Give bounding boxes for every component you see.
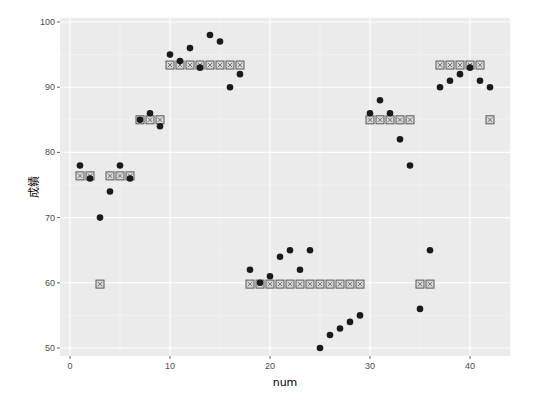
score-dot	[127, 175, 134, 182]
score-dot	[377, 97, 384, 104]
square-x-marker	[116, 172, 124, 180]
score-dot	[197, 64, 204, 71]
score-dot	[467, 64, 474, 71]
score-dot	[367, 110, 374, 117]
y-tick-label: 70	[45, 213, 55, 223]
y-axis: 5060708090100	[40, 17, 60, 353]
y-axis-title: 成績	[27, 176, 41, 198]
score-dot	[407, 162, 414, 169]
score-dot	[217, 38, 224, 45]
score-dot	[147, 110, 154, 117]
square-x-marker	[396, 116, 404, 124]
score-dot	[117, 162, 124, 169]
square-x-marker	[226, 61, 234, 69]
score-dot	[187, 45, 194, 52]
score-dot	[267, 273, 274, 280]
x-tick-label: 0	[67, 361, 72, 371]
square-x-marker	[306, 280, 314, 288]
score-dot	[477, 77, 484, 84]
score-dot	[457, 71, 464, 78]
score-dot	[177, 58, 184, 65]
score-dot	[357, 312, 364, 319]
square-x-marker	[486, 116, 494, 124]
score-dot	[277, 253, 284, 260]
square-x-marker	[276, 280, 284, 288]
score-dot	[157, 123, 164, 130]
x-tick-label: 20	[265, 361, 275, 371]
square-x-marker	[266, 280, 274, 288]
y-tick-label: 50	[45, 343, 55, 353]
score-dot	[447, 77, 454, 84]
square-x-marker	[76, 172, 84, 180]
square-x-marker	[186, 61, 194, 69]
y-tick-label: 100	[40, 17, 55, 27]
score-dot	[437, 84, 444, 91]
square-x-marker	[386, 116, 394, 124]
score-dot	[317, 345, 324, 352]
y-tick-label: 60	[45, 278, 55, 288]
square-x-marker	[406, 116, 414, 124]
square-x-marker	[456, 61, 464, 69]
square-x-marker	[286, 280, 294, 288]
score-dot	[427, 247, 434, 254]
score-dot	[287, 247, 294, 254]
square-x-marker	[376, 116, 384, 124]
square-x-marker	[346, 280, 354, 288]
square-x-marker	[356, 280, 364, 288]
x-tick-label: 30	[365, 361, 375, 371]
square-x-marker	[476, 61, 484, 69]
score-dot	[397, 136, 404, 143]
x-axis: 010203040	[67, 356, 475, 371]
score-dot	[387, 110, 394, 117]
square-x-marker	[446, 61, 454, 69]
score-dot	[417, 306, 424, 313]
square-x-marker	[296, 280, 304, 288]
x-axis-title: num	[273, 376, 298, 389]
score-dot	[97, 214, 104, 221]
score-dot	[247, 266, 254, 273]
score-dot	[107, 188, 114, 195]
scatter-chart: 010203040 5060708090100 num 成績	[0, 0, 534, 407]
square-x-marker	[316, 280, 324, 288]
square-x-marker	[436, 61, 444, 69]
x-tick-label: 10	[165, 361, 175, 371]
score-dot	[257, 280, 264, 287]
square-x-marker	[326, 280, 334, 288]
square-x-marker	[146, 116, 154, 124]
y-tick-label: 90	[45, 82, 55, 92]
square-x-marker	[336, 280, 344, 288]
score-dot	[227, 84, 234, 91]
score-dot	[297, 266, 304, 273]
score-dot	[487, 84, 494, 91]
square-x-marker	[206, 61, 214, 69]
square-x-marker	[426, 280, 434, 288]
square-x-marker	[106, 172, 114, 180]
square-x-marker	[96, 280, 104, 288]
score-dot	[327, 332, 334, 339]
y-tick-label: 80	[45, 147, 55, 157]
score-dot	[137, 117, 144, 124]
score-dot	[237, 71, 244, 78]
score-dot	[307, 247, 314, 254]
square-x-marker	[156, 116, 164, 124]
score-dot	[87, 175, 94, 182]
square-x-marker	[246, 280, 254, 288]
square-x-marker	[236, 61, 244, 69]
score-dot	[337, 325, 344, 332]
square-x-marker	[416, 280, 424, 288]
score-dot	[347, 319, 354, 326]
score-dot	[77, 162, 84, 169]
score-dot	[167, 51, 174, 58]
square-x-marker	[166, 61, 174, 69]
score-dot	[207, 32, 214, 39]
x-tick-label: 40	[465, 361, 475, 371]
square-x-marker	[216, 61, 224, 69]
square-x-marker	[366, 116, 374, 124]
